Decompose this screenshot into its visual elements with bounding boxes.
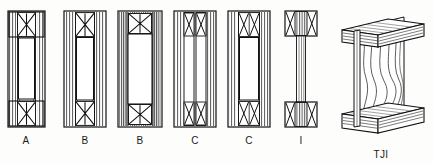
caption-section-b2: B	[136, 135, 143, 146]
caption-section-a: A	[22, 135, 29, 146]
caption-section-c2: C	[245, 135, 253, 146]
section-c1: C	[174, 11, 216, 146]
caption-section-c1: C	[191, 135, 199, 146]
caption-joist-tji: TJI	[373, 149, 388, 160]
section-b1: B	[64, 11, 106, 146]
section-a: A	[8, 11, 45, 146]
caption-section-i: I	[299, 135, 302, 146]
section-c2: C	[228, 11, 270, 146]
caption-section-b1: B	[81, 135, 88, 146]
section-b2: B	[118, 11, 162, 146]
diagram-canvas: A B B	[0, 0, 433, 163]
framing-sections-diagram: A B B	[0, 0, 433, 163]
